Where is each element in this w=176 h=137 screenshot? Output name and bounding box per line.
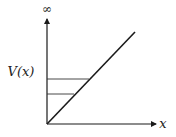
potential-diagram: ∞ V(x) x xyxy=(0,0,176,137)
potential-line xyxy=(47,32,135,124)
infinity-symbol: ∞ xyxy=(42,2,52,16)
x-axis-label: x xyxy=(159,116,167,131)
y-axis-label: V(x) xyxy=(8,64,35,79)
